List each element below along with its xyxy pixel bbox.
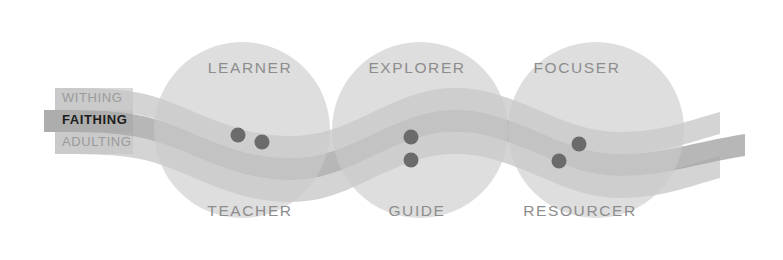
marker-6[interactable]: [572, 137, 587, 152]
marker-3[interactable]: [404, 130, 419, 145]
sphere-3-bottom-label: RESOURCER: [523, 202, 636, 219]
band-label-faithing: FAITHING: [62, 112, 127, 127]
marker-5[interactable]: [552, 154, 567, 169]
sphere-1-top-label: LEARNER: [208, 59, 292, 76]
band-label-withing: WITHING: [62, 90, 123, 105]
marker-1[interactable]: [231, 128, 246, 143]
marker-2[interactable]: [255, 135, 270, 150]
marker-4[interactable]: [404, 153, 419, 168]
diagram-canvas: LEARNER TEACHER EXPLORER GUIDE FOCUSER R…: [0, 0, 783, 260]
sphere-2-bottom-label: GUIDE: [388, 202, 445, 219]
band-labels: WITHING FAITHING ADULTING: [62, 90, 132, 149]
faith-development-diagram: LEARNER TEACHER EXPLORER GUIDE FOCUSER R…: [0, 0, 783, 260]
sphere-1-bottom-label: TEACHER: [207, 202, 292, 219]
band-label-adulting: ADULTING: [62, 134, 132, 149]
sphere-2-top-label: EXPLORER: [368, 59, 465, 76]
sphere-3-top-label: FOCUSER: [534, 59, 621, 76]
